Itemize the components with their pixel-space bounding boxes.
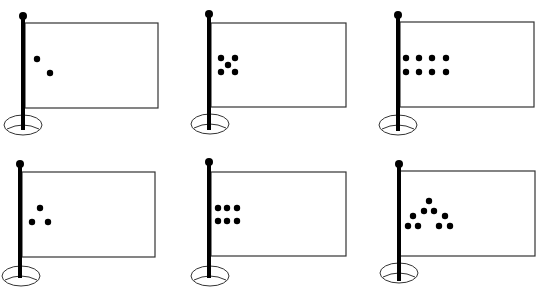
dot	[403, 55, 409, 61]
dot	[234, 205, 240, 211]
flag-cloth	[400, 22, 534, 107]
dot	[405, 223, 411, 229]
dot	[410, 213, 416, 219]
dot	[442, 213, 448, 219]
dot	[403, 69, 409, 75]
dot	[34, 56, 40, 62]
dot	[215, 218, 221, 224]
flag-cloth	[400, 171, 535, 256]
dot	[431, 208, 437, 214]
dot	[232, 69, 238, 75]
flag-1	[4, 12, 158, 135]
dot	[218, 55, 224, 61]
dot	[215, 205, 221, 211]
flags-diagram	[0, 0, 541, 293]
dot	[415, 223, 421, 229]
dot	[447, 223, 453, 229]
flag-cloth	[22, 172, 155, 257]
flag-4	[2, 160, 155, 286]
flag-cloth	[211, 23, 346, 107]
dot	[443, 55, 449, 61]
pole-knob	[205, 10, 213, 18]
dot	[426, 198, 432, 204]
dot	[47, 70, 53, 76]
dot	[45, 219, 51, 225]
flag-cloth	[211, 172, 346, 256]
dot	[416, 69, 422, 75]
pole-knob	[395, 160, 403, 168]
pole-knob	[19, 12, 27, 20]
dot	[218, 69, 224, 75]
dot	[29, 219, 35, 225]
flag-3	[379, 11, 534, 135]
dot	[234, 218, 240, 224]
dot	[436, 223, 442, 229]
pole-knob	[205, 158, 213, 166]
dot	[421, 208, 427, 214]
dot	[232, 55, 238, 61]
dot	[429, 69, 435, 75]
dot	[443, 69, 449, 75]
pole-knob	[16, 160, 24, 168]
dot	[225, 62, 231, 68]
flag-cloth	[25, 23, 158, 108]
dot	[416, 55, 422, 61]
pole-knob	[394, 11, 402, 19]
flag-5	[191, 158, 346, 286]
dot	[429, 55, 435, 61]
flag-6	[380, 160, 535, 283]
flag-2	[191, 10, 346, 134]
dot	[37, 205, 43, 211]
dot	[224, 218, 230, 224]
dot	[224, 205, 230, 211]
